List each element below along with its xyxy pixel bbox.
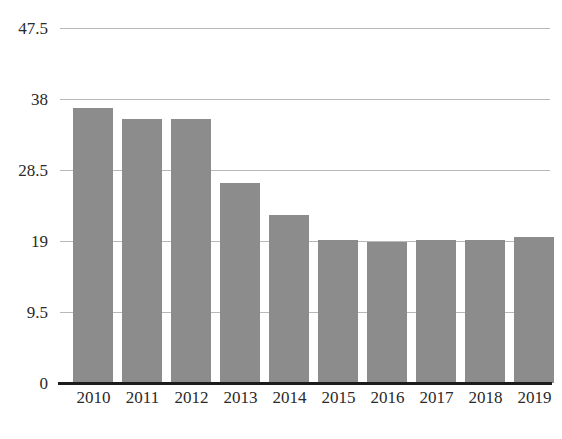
x-tick-label-2018: 2018 — [461, 389, 510, 408]
x-tick-label-2016: 2016 — [363, 389, 412, 408]
bar-2011 — [122, 119, 162, 383]
x-tick-label-2015: 2015 — [314, 389, 363, 408]
x-tick-label-2011: 2011 — [118, 389, 167, 408]
bar-2014 — [269, 215, 309, 383]
bar-2017 — [416, 240, 456, 383]
bar-2015 — [318, 240, 358, 383]
x-tick-label-2010: 2010 — [69, 389, 118, 408]
bar-2016 — [367, 242, 407, 383]
x-axis-labels: 2010 2011 2012 2013 2014 2015 2016 2017 … — [60, 389, 550, 419]
x-tick-label-2014: 2014 — [265, 389, 314, 408]
y-tick-label-28-5: 28.5 — [0, 162, 48, 179]
bar-2012 — [171, 119, 211, 383]
bar-chart: 47.5 38 28.5 19 9.5 0 2010 2011 2012 201… — [0, 0, 562, 439]
x-tick-label-2017: 2017 — [412, 389, 461, 408]
bar-2019 — [514, 237, 554, 383]
x-tick-label-2013: 2013 — [216, 389, 265, 408]
y-tick-label-0: 0 — [0, 375, 48, 392]
plot-area — [60, 28, 550, 383]
y-tick-label-19: 19 — [0, 233, 48, 250]
bar-2018 — [465, 240, 505, 383]
bar-2013 — [220, 183, 260, 383]
y-tick-label-9-5: 9.5 — [0, 304, 48, 321]
y-tick-label-47-5: 47.5 — [0, 20, 48, 37]
x-tick-label-2012: 2012 — [167, 389, 216, 408]
cropped-caption-strip — [150, 429, 550, 437]
gridline-47-5 — [60, 28, 550, 29]
x-tick-label-2019: 2019 — [510, 389, 559, 408]
bar-2010 — [73, 108, 113, 383]
y-tick-label-38: 38 — [0, 91, 48, 108]
x-axis-line — [58, 382, 552, 385]
gridline-38 — [60, 99, 550, 100]
